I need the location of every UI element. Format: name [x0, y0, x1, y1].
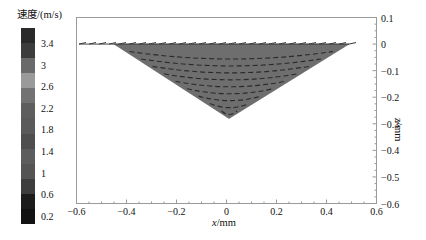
- x-tick-label: −0.2: [167, 206, 185, 217]
- melt-pool-region: [114, 44, 349, 118]
- z-axis-label: z/mm: [393, 118, 404, 141]
- z-tick-label: −0.2: [381, 92, 399, 103]
- z-tick-label: 0: [381, 39, 386, 50]
- x-axis-ticks: [77, 200, 377, 204]
- z-tick-label: −0.6: [381, 198, 399, 209]
- x-tick-label: −0.6: [67, 206, 85, 217]
- z-tick-label: 0.1: [381, 12, 394, 23]
- z-tick-label: −0.5: [381, 171, 399, 182]
- x-tick-label: 0.2: [270, 206, 283, 217]
- x-tick-label: 0.4: [320, 206, 333, 217]
- surface-arrows: [79, 43, 356, 45]
- z-tick-label: −0.1: [381, 65, 399, 76]
- x-axis-label: x/mm: [212, 217, 236, 228]
- plot-area: [0, 0, 426, 240]
- z-axis-ticks: [373, 18, 377, 204]
- z-tick-label: −0.4: [381, 145, 399, 156]
- x-tick-label: −0.4: [117, 206, 135, 217]
- x-tick-label: 0: [224, 206, 229, 217]
